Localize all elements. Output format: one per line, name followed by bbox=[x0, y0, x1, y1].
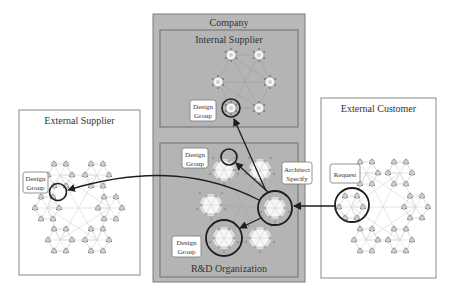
organization-diagram: External Supplier Design Group bbox=[0, 0, 450, 293]
svg-text:Architect: Architect bbox=[284, 166, 310, 174]
svg-text:Group: Group bbox=[186, 160, 204, 168]
svg-text:Group: Group bbox=[178, 248, 196, 256]
request-label: Request bbox=[330, 164, 360, 183]
rd-lower-design-group-label: Design Group bbox=[172, 236, 201, 257]
svg-text:Group: Group bbox=[27, 184, 45, 192]
internal-design-group-label: Design Group bbox=[190, 100, 216, 121]
svg-text:Design: Design bbox=[193, 103, 213, 111]
external-customer-title: External Customer bbox=[341, 103, 417, 114]
svg-text:Design: Design bbox=[26, 175, 46, 183]
external-supplier-panel: External Supplier Design Group bbox=[19, 110, 140, 275]
svg-text:Specify: Specify bbox=[286, 175, 308, 183]
internal-supplier-title: Internal Supplier bbox=[195, 34, 263, 45]
external-supplier-title: External Supplier bbox=[44, 115, 115, 126]
internal-supplier-panel: Internal Supplier Design Group bbox=[160, 30, 298, 127]
rd-upper-design-group-label: Design Group bbox=[182, 148, 208, 168]
external-design-group-label: Design Group bbox=[23, 172, 48, 193]
rd-organization-title: R&D Organization bbox=[191, 263, 267, 274]
company-panel: Company Internal Supplier Design bbox=[153, 14, 312, 282]
company-title: Company bbox=[210, 17, 249, 28]
external-customer-panel: External Customer Request bbox=[321, 98, 436, 278]
svg-text:Request: Request bbox=[334, 171, 357, 179]
architect-specify-label: Architect Specify bbox=[282, 162, 312, 184]
svg-text:Group: Group bbox=[194, 112, 212, 120]
svg-text:Design: Design bbox=[185, 151, 205, 159]
svg-text:Design: Design bbox=[177, 239, 197, 247]
